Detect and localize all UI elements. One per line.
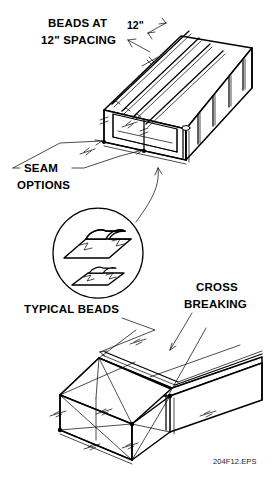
break-symbol-front2 [80,148,95,155]
cross-label-line1: CROSS [196,281,238,293]
cross-broken-duct [50,328,262,464]
cross-breaking-leader [170,313,192,350]
seam-label-line2: OPTIONS [17,179,70,191]
figure-id: 204F12.EPS [213,457,257,466]
cross-label-line2: BREAKING [184,298,247,310]
break-symbol-lower-f [130,339,146,345]
dimension-12in-arrows [148,18,166,39]
seam-leader-right [72,150,143,168]
beads-label-line1: BEADS AT [48,17,107,29]
typical-beads-label: TYPICAL BEADS [24,303,119,315]
beaded-duct [80,31,252,164]
typical-beads-leader [100,318,155,356]
beads-leader [128,39,150,52]
beads-label-line2: 12" SPACING [41,34,116,46]
figure-canvas: BEADS AT 12" SPACING 12" [0,0,273,481]
seam-label-line1: SEAM [24,162,58,174]
dimension-12in-label: 12" [127,19,144,31]
